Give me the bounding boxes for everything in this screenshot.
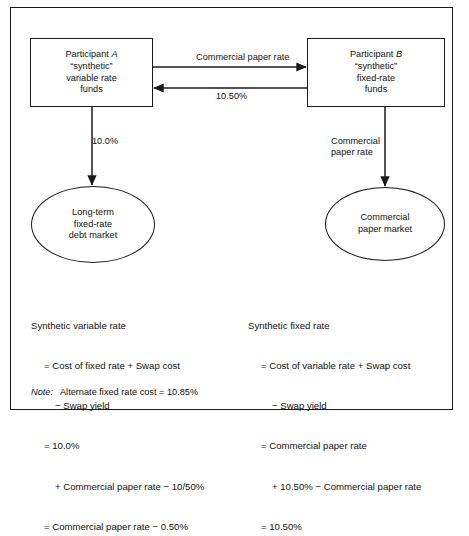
participant-a-line2: “synthetic” (70, 61, 112, 73)
participant-b-line1: Participant B (350, 49, 402, 61)
participant-b-letter: B (396, 49, 402, 59)
calc-left-line-5: = Commercial paper rate − 0.50% (31, 520, 204, 533)
participant-a-prefix: Participant (65, 49, 111, 59)
calc-right-line-2: − Swap yield (248, 399, 421, 412)
long-term-debt-market-node: Long-term fixed-rate debt market (31, 186, 155, 263)
note-label: Note: (31, 387, 53, 397)
arrow-b-down-label: Commercial paper rate (331, 136, 380, 159)
participant-a-line1: Participant A (65, 49, 117, 61)
participant-b-line3: fixed-rate (357, 73, 395, 85)
synthetic-variable-rate-calc: Synthetic variable rate = Cost of fixed … (31, 292, 204, 536)
participant-b-line2: “synthetic” (355, 61, 397, 73)
figure-note: Note:Alternate fixed rate cost = 10.85% (31, 387, 198, 397)
calc-left-line-3: = 10.0% (31, 439, 204, 452)
participant-a-line4: funds (80, 84, 102, 96)
participant-a-letter: A (111, 49, 117, 59)
calc-right-line-1: = Cost of variable rate + Swap cost (248, 359, 421, 372)
participant-b-box: Participant B “synthetic” fixed-rate fun… (307, 38, 445, 107)
participant-b-line4: funds (365, 84, 387, 96)
participant-a-line3: variable rate (66, 73, 117, 85)
synthetic-fixed-rate-calc: Synthetic fixed rate = Cost of variable … (248, 292, 421, 536)
calc-right-line-4: + 10.50% − Commercial paper rate (248, 480, 421, 493)
note-text: Alternate fixed rate cost = 10.85% (53, 387, 198, 397)
calc-left-line-1: = Cost of fixed rate + Swap cost (31, 359, 204, 372)
participant-a-box: Participant A “synthetic” variable rate … (30, 38, 153, 107)
commercial-paper-market-node: Commercial paper market (325, 187, 445, 261)
calc-left-line-2: − Swap yield (31, 399, 204, 412)
arrow-b-to-a-label: 10.50% (216, 91, 247, 102)
arrow-a-to-b-label: Commercial paper rate (196, 52, 289, 63)
participant-b-prefix: Participant (350, 49, 396, 59)
calc-right-title: Synthetic fixed rate (248, 319, 421, 332)
calc-right-line-3: = Commercial paper rate (248, 439, 421, 452)
arrow-a-down-label: 10.0% (92, 136, 118, 147)
calc-left-title: Synthetic variable rate (31, 319, 204, 332)
calc-left-line-4: + Commercial paper rate − 10/50% (31, 480, 204, 493)
calc-right-line-5: = 10.50% (248, 520, 421, 533)
